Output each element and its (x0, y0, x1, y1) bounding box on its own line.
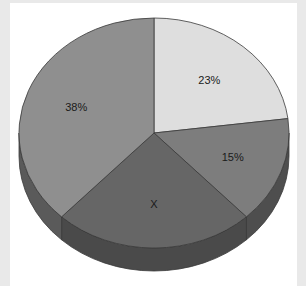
pie-label-x: X (150, 198, 158, 210)
pie-label-38pct: 38% (65, 101, 87, 113)
pie-label-23pct: 23% (198, 74, 220, 86)
pie-chart: 23%15%X38% (0, 0, 306, 286)
pie-label-15pct: 15% (222, 151, 244, 163)
pie-slice-23pct (154, 18, 288, 133)
pie-slices (19, 18, 289, 248)
